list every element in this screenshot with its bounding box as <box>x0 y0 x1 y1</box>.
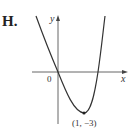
option-label: H. <box>2 13 17 30</box>
vertex-point <box>82 111 85 114</box>
graph-figure: H. y x 0 (1, −3) <box>0 0 136 137</box>
x-axis-label: x <box>120 73 126 84</box>
graph-svg: y x 0 (1, −3) <box>0 0 136 137</box>
parabola-curve <box>36 16 105 113</box>
vertex-label: (1, −3) <box>72 118 97 128</box>
y-axis-arrow-icon <box>56 15 60 21</box>
y-axis-label: y <box>49 13 55 24</box>
origin-label: 0 <box>47 74 52 84</box>
